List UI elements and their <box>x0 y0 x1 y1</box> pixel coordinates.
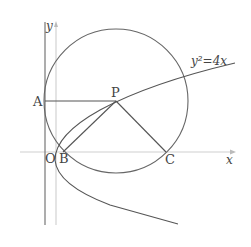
point-label-C: C <box>165 152 175 167</box>
y-axis-arrow-icon <box>54 21 58 27</box>
y-axis-label: y <box>45 19 53 33</box>
segment-PB <box>63 101 116 152</box>
point-label-B: B <box>59 151 69 166</box>
segment-PC <box>116 101 166 152</box>
point-label-P: P <box>111 85 120 100</box>
x-axis-label: x <box>226 153 233 167</box>
point-label-O: O <box>45 151 56 166</box>
point-label-A: A <box>32 94 43 109</box>
parabola <box>55 63 235 224</box>
diagram-canvas: y x y²=4x A P O B C <box>0 0 251 247</box>
equation-label: y²=4x <box>190 54 227 68</box>
